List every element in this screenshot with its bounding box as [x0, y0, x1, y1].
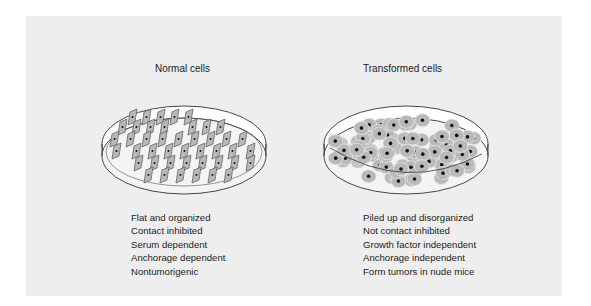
normal-cells-title: Normal cells — [155, 63, 210, 74]
normal-cells-dish-illustration — [98, 98, 270, 202]
property-item: Not contact inhibited — [363, 224, 476, 237]
property-item: Serum dependent — [131, 238, 225, 251]
normal-cells-properties-list: Flat and organized Contact inhibited Ser… — [131, 211, 225, 278]
property-item: Piled up and disorganized — [363, 211, 476, 224]
property-item: Form tumors in nude mice — [363, 265, 476, 278]
transformed-cells-title: Transformed cells — [363, 63, 442, 74]
property-item: Flat and organized — [131, 211, 225, 224]
property-item: Contact inhibited — [131, 224, 225, 237]
property-item: Anchorage independent — [363, 251, 476, 264]
property-item: Nontumorigenic — [131, 265, 225, 278]
transformed-cells-properties-list: Piled up and disorganized Not contact in… — [363, 211, 476, 278]
property-item: Anchorage dependent — [131, 251, 225, 264]
property-item: Growth factor independent — [363, 238, 476, 251]
transformed-cells-dish-illustration — [320, 98, 492, 202]
